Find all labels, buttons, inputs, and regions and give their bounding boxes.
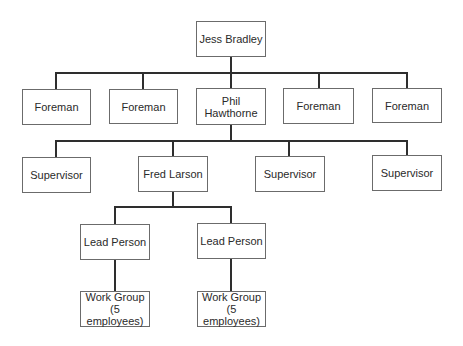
connector (230, 72, 232, 88)
connector (142, 72, 144, 89)
connector (406, 140, 408, 155)
node-work-group-2: Work Group (5 employees) (197, 291, 266, 327)
node-lead-person-2: Lead Person (197, 223, 266, 259)
node-foreman-5: Foreman (372, 88, 442, 123)
connector (230, 258, 232, 291)
connector (318, 72, 320, 89)
node-phil-hawthorne: Phil Hawthorne (196, 88, 266, 125)
node-fred-larson: Fred Larson (138, 156, 208, 192)
connector (114, 206, 232, 208)
node-foreman-1: Foreman (22, 89, 91, 125)
node-supervisor-3: Supervisor (255, 156, 325, 192)
node-foreman-2: Foreman (109, 89, 178, 124)
node-work-group-1: Work Group (5 employees) (80, 291, 150, 327)
connector (172, 140, 174, 156)
connector (114, 206, 116, 224)
connector (288, 140, 290, 156)
node-supervisor-1: Supervisor (22, 157, 91, 193)
connector (55, 72, 57, 89)
org-chart: Jess Bradley Foreman Foreman Phil Hawtho… (0, 0, 463, 346)
connector (114, 259, 116, 291)
connector (55, 140, 57, 157)
connector (406, 72, 408, 89)
node-jess-bradley: Jess Bradley (196, 21, 266, 57)
connector (55, 140, 408, 142)
node-lead-person-1: Lead Person (80, 224, 150, 260)
node-foreman-4: Foreman (283, 88, 354, 124)
connector (230, 56, 232, 73)
node-supervisor-4: Supervisor (372, 155, 442, 191)
connector (230, 206, 232, 223)
